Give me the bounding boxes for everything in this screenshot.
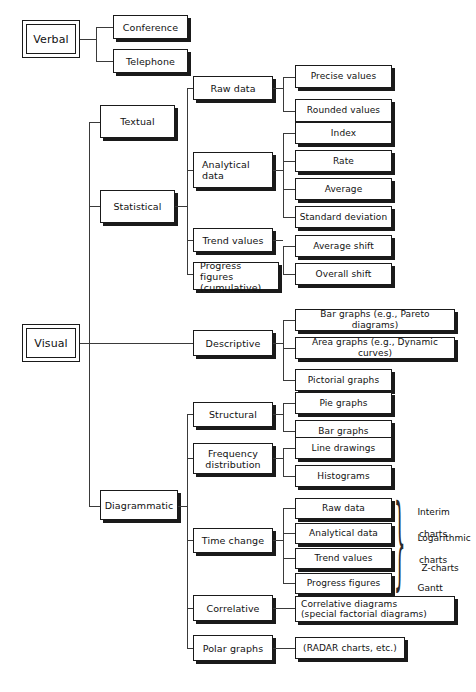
- connector-rawdata-precise: [283, 77, 295, 78]
- connector-to-textual: [89, 122, 100, 123]
- node-descriptive[interactable]: Descriptive: [193, 330, 273, 356]
- node-pictorial-graphs[interactable]: Pictorial graphs: [295, 369, 392, 391]
- connector-structural-spine: [283, 403, 284, 431]
- node-diagrammatic[interactable]: Diagrammatic: [100, 490, 178, 520]
- node-tc-trend-values[interactable]: Trend values: [295, 548, 392, 569]
- node-polar-graphs[interactable]: Polar graphs: [193, 635, 273, 661]
- node-label: Descriptive: [206, 338, 261, 349]
- node-label: Verbal: [33, 34, 68, 45]
- node-average[interactable]: Average: [295, 178, 392, 200]
- connector-rawdata-out: [273, 88, 283, 89]
- node-label: Trend values: [315, 553, 373, 564]
- connector-verbal-spine: [96, 27, 97, 61]
- node-tc-analytical-data[interactable]: Analytical data: [295, 523, 392, 544]
- node-rate[interactable]: Rate: [295, 150, 392, 172]
- connector-textual-statistical-spine: [89, 122, 90, 506]
- node-label: Overall shift: [316, 269, 372, 280]
- node-label: Rounded values: [307, 105, 380, 116]
- node-correlative-diagrams[interactable]: Correlative diagrams (special factorial …: [295, 596, 455, 622]
- node-label: Rate: [333, 156, 354, 167]
- node-trend-values[interactable]: Trend values: [193, 228, 273, 252]
- connector-struct-bar: [283, 431, 295, 432]
- connector-correlative-out: [273, 608, 295, 609]
- node-structural[interactable]: Structural: [193, 402, 273, 427]
- connector-tc-analytical: [283, 533, 295, 534]
- connector-trend-spine: [283, 246, 284, 274]
- connector-diagrammatic-spine: [187, 414, 188, 634]
- node-label: Pictorial graphs: [308, 375, 379, 386]
- node-label: Structural: [209, 409, 257, 420]
- node-label: Average shift: [313, 241, 374, 252]
- node-label: Average: [325, 184, 363, 195]
- connector-diagrammatic-spine-lower: [187, 634, 188, 648]
- node-label: Polar graphs: [203, 643, 264, 654]
- node-standard-deviation[interactable]: Standard deviation: [295, 206, 392, 228]
- connector-analytical-average: [283, 189, 295, 190]
- node-label: (RADAR charts, etc.): [303, 643, 397, 654]
- node-time-change[interactable]: Time change: [193, 528, 273, 553]
- connector-freq-linedrawings: [283, 448, 295, 449]
- connector-analytical-index: [283, 133, 295, 134]
- connector-trend-avgshift: [283, 246, 295, 247]
- connector-descriptive-out: [273, 343, 283, 344]
- tree-diagram: Verbal Conference Telephone Textual Stat…: [0, 0, 476, 692]
- node-progress-figures-cumulative[interactable]: Progress figures (cumulative): [193, 262, 279, 290]
- node-label: Analytical data: [309, 528, 378, 539]
- connector-verbal-stub: [80, 39, 96, 40]
- node-bar-graphs-pareto[interactable]: Bar graphs (e.g., Pareto diagrams): [295, 309, 455, 331]
- node-pie-graphs[interactable]: Pie graphs: [295, 392, 392, 414]
- node-label: Correlative: [206, 603, 259, 614]
- node-label: Diagrammatic: [105, 500, 174, 511]
- node-verbal[interactable]: Verbal: [22, 20, 80, 58]
- node-telephone[interactable]: Telephone: [113, 49, 188, 73]
- connector-desc-pictorial: [283, 380, 295, 381]
- node-statistical[interactable]: Statistical: [100, 190, 175, 223]
- node-label: Trend values: [202, 235, 263, 246]
- connector-to-statistical: [89, 206, 100, 207]
- node-histograms[interactable]: Histograms: [295, 465, 392, 487]
- node-raw-data[interactable]: Raw data: [193, 76, 273, 100]
- connector-visual-descriptive: [89, 343, 193, 344]
- node-label: Raw data: [322, 503, 365, 514]
- node-label: Pie graphs: [319, 398, 367, 409]
- connector-statistical-out: [175, 206, 187, 207]
- brace-label-line1: Gantt: [417, 583, 442, 593]
- node-label: Histograms: [317, 471, 369, 482]
- node-label: Line drawings: [312, 443, 376, 454]
- node-frequency-distribution[interactable]: Frequency distribution: [193, 443, 273, 474]
- node-average-shift[interactable]: Average shift: [295, 235, 392, 257]
- node-tc-raw-data[interactable]: Raw data: [295, 498, 392, 519]
- node-label: Index: [331, 128, 356, 139]
- connector-visual-diagrammatic: [89, 506, 100, 507]
- node-precise-values[interactable]: Precise values: [295, 65, 392, 88]
- node-overall-shift[interactable]: Overall shift: [295, 263, 392, 285]
- brace-label-line1: Logarithmic: [417, 533, 470, 543]
- node-tc-progress-figures[interactable]: Progress figures: [295, 573, 392, 594]
- node-area-graphs-dynamic[interactable]: Area graphs (e.g., Dynamic curves): [295, 337, 455, 359]
- connector-visual-stub: [80, 343, 89, 344]
- node-label: Progress figures (cumulative): [200, 260, 275, 293]
- node-conference[interactable]: Conference: [113, 15, 188, 39]
- node-label: Standard deviation: [300, 212, 387, 223]
- node-label: Frequency distribution: [205, 448, 260, 470]
- node-correlative[interactable]: Correlative: [193, 595, 273, 621]
- node-rounded-values[interactable]: Rounded values: [295, 99, 392, 122]
- connector-freq-histograms: [283, 476, 295, 477]
- connector-tc-rawdata: [283, 508, 295, 509]
- connector-analytical-spine: [283, 133, 284, 217]
- node-textual[interactable]: Textual: [100, 105, 175, 138]
- node-radar-charts[interactable]: (RADAR charts, etc.): [295, 637, 405, 659]
- node-visual[interactable]: Visual: [22, 324, 80, 362]
- connector-diagrammatic-out: [178, 506, 187, 507]
- connector-trend-overallshift: [283, 274, 295, 275]
- connector-rawdata-spine: [283, 77, 284, 111]
- node-label: Bar graphs: [318, 426, 368, 437]
- node-label: Visual: [34, 338, 67, 349]
- node-label: Statistical: [113, 201, 161, 212]
- node-index[interactable]: Index: [295, 122, 392, 144]
- node-analytical-data[interactable]: Analytical data: [193, 152, 273, 188]
- connector-tc-progress: [283, 583, 295, 584]
- node-label: Raw data: [210, 83, 255, 94]
- connector-desc-bar: [283, 320, 295, 321]
- node-line-drawings[interactable]: Line drawings: [295, 437, 392, 459]
